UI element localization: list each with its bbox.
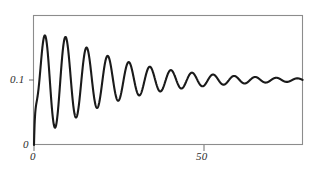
x-axis-label-0: 0: [30, 150, 36, 162]
plot-area: [0, 0, 317, 178]
x-axis-label-50: 50: [196, 150, 207, 162]
y-axis-label-0.1: 0.1: [10, 73, 24, 85]
chart-screenshot: 0.1 0 0 50: [0, 0, 317, 178]
y-axis-label-0: 0: [23, 138, 29, 150]
